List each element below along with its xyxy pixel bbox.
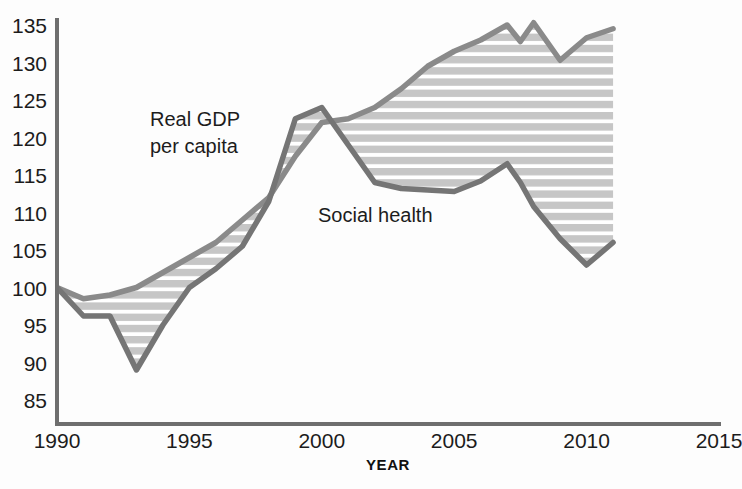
y-tick-label: 120 [12, 127, 47, 150]
x-tick-label: 2015 [696, 429, 742, 452]
y-tick-label: 110 [14, 202, 47, 225]
y-tick-label: 135 [12, 14, 47, 37]
y-tick-label: 90 [24, 352, 47, 375]
annotation-real-gdp-line1: Real GDP [150, 108, 240, 130]
x-tick-label: 2005 [431, 429, 478, 452]
y-axis-tick-labels: 859095100105110115120125130135 [12, 14, 47, 412]
annotation-social-health: Social health [318, 204, 433, 226]
x-tick-label: 2000 [298, 429, 345, 452]
line-chart: 859095100105110115120125130135 199019952… [0, 0, 742, 489]
chart-container: 859095100105110115120125130135 199019952… [0, 0, 742, 489]
x-axis-title: YEAR [366, 456, 410, 473]
y-tick-label: 115 [14, 164, 47, 187]
x-tick-label: 1995 [166, 429, 213, 452]
annotation-real-gdp-line2: per capita [150, 135, 239, 157]
y-tick-label: 125 [12, 89, 47, 112]
y-tick-label: 85 [24, 389, 47, 412]
x-tick-label: 1990 [34, 429, 81, 452]
annotation-social-health-line1: Social health [318, 204, 433, 226]
y-tick-label: 105 [12, 239, 47, 262]
annotation-real-gdp: Real GDP per capita [150, 108, 240, 157]
x-axis-tick-labels: 199019952000200520102015 [34, 429, 742, 452]
x-tick-label: 2010 [563, 429, 610, 452]
y-tick-label: 130 [12, 52, 47, 75]
y-tick-label: 95 [24, 314, 47, 337]
y-tick-label: 100 [12, 277, 47, 300]
